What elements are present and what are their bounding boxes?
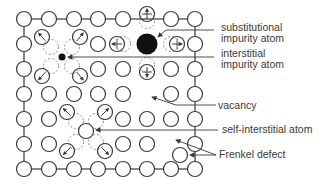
- lattice-atom: [17, 112, 32, 127]
- displacement-arrow-icon: [63, 108, 70, 115]
- lattice-atom: [164, 12, 179, 27]
- lattice-atom: [164, 62, 179, 77]
- lattice-atom: [188, 112, 203, 127]
- label-line: impurity atom: [221, 33, 284, 44]
- displacement-arrow-icon: [77, 72, 83, 80]
- lattice-atom: [42, 87, 57, 102]
- label-line: interstitial: [221, 48, 284, 59]
- interstitial-impurity-atom: [59, 54, 66, 61]
- lattice-atom: [188, 87, 203, 102]
- lattice-atom: [17, 137, 32, 152]
- lattice-atom: [67, 162, 82, 177]
- lattice-atom: [164, 112, 179, 127]
- lattice-atom: [116, 137, 131, 152]
- label-line: self-interstitial atom: [222, 124, 312, 135]
- original-position-dashed-circle: [44, 40, 59, 55]
- lattice-atom: [116, 87, 131, 102]
- lattice-atom: [91, 87, 106, 102]
- displacement-arrow-icon: [101, 108, 108, 115]
- lattice-atom: [91, 37, 106, 52]
- lattice-atom: [91, 62, 106, 77]
- displacement-arrow-icon: [77, 33, 83, 41]
- lattice-atom: [188, 37, 203, 52]
- substitutional-impurity-atom: [137, 34, 158, 55]
- frenkel-interstitial-atom: [173, 148, 188, 163]
- original-position-dashed-circle: [65, 59, 80, 74]
- leader-substitutional: [158, 30, 214, 37]
- lattice-atom: [42, 162, 57, 177]
- label-line: Frenkel defect: [219, 149, 286, 160]
- lattice-atom: [116, 12, 131, 27]
- lattice-atom: [91, 12, 106, 27]
- displacement-arrow-icon: [39, 72, 46, 79]
- lattice-atom: [91, 162, 106, 177]
- label-line: vacancy: [218, 100, 257, 111]
- lattice-atom: [17, 37, 32, 52]
- lattice-atom: [17, 62, 32, 77]
- label-line: impurity atom: [221, 59, 284, 70]
- lattice-atom: [164, 87, 179, 102]
- lattice-atom: [17, 12, 32, 27]
- label-frenkel-defect: Frenkel defect: [219, 149, 286, 160]
- lattice-atom: [42, 112, 57, 127]
- original-position-dashed-circle: [65, 40, 80, 55]
- lattice-atom: [67, 87, 82, 102]
- lattice-atom: [188, 62, 203, 77]
- atoms-layer: [17, 7, 203, 177]
- lattice-atom: [188, 12, 203, 27]
- leader-vacancy: [152, 97, 216, 105]
- label-interstitial-impurity-atom: interstitial impurity atom: [221, 48, 284, 69]
- lattice-atom: [67, 12, 82, 27]
- label-vacancy: vacancy: [218, 100, 257, 111]
- lattice-atom: [140, 162, 155, 177]
- lattice-atom: [116, 162, 131, 177]
- original-position-dashed-circle: [44, 59, 59, 74]
- lattice-atom: [116, 112, 131, 127]
- lattice-atom: [116, 62, 131, 77]
- label-self-interstitial-atom: self-interstitial atom: [222, 124, 312, 135]
- displacement-arrow-icon: [101, 147, 108, 154]
- self-interstitial-atom: [79, 124, 94, 139]
- lattice-atom: [140, 112, 155, 127]
- label-line: substitutional: [221, 22, 284, 33]
- lattice-atom: [17, 87, 32, 102]
- original-positions-layer: [44, 14, 179, 150]
- displacement-arrow-icon: [39, 33, 46, 40]
- lattice-atom: [42, 12, 57, 27]
- displacement-arrow-icon: [63, 147, 70, 154]
- lattice-atom: [42, 137, 57, 152]
- lattice-atom: [17, 162, 32, 177]
- lattice-atom: [164, 162, 179, 177]
- lattice-atom: [188, 162, 203, 177]
- lattice-atom: [140, 137, 155, 152]
- label-substitutional-impurity-atom: substitutional impurity atom: [221, 22, 284, 43]
